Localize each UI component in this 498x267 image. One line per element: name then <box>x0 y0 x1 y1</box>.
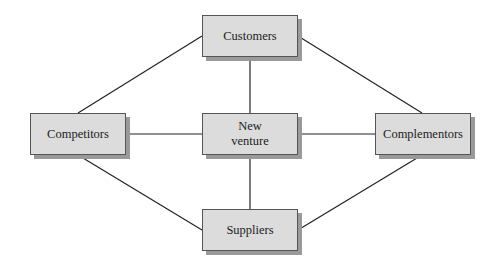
node-label: Complementors <box>383 127 463 142</box>
edge-customers-complementors <box>298 36 422 113</box>
node-label-line2: venture <box>231 134 268 149</box>
node-label-line1: New <box>238 119 262 134</box>
edge-suppliers-complementors <box>298 155 422 230</box>
node-complementors: Complementors <box>375 113 471 155</box>
node-label: Suppliers <box>226 223 273 238</box>
edge-suppliers-competitors <box>78 155 202 230</box>
node-label: Competitors <box>47 127 109 142</box>
node-label: Customers <box>223 29 276 44</box>
edge-customers-competitors <box>78 36 202 113</box>
node-competitors: Competitors <box>30 113 126 155</box>
node-suppliers: Suppliers <box>202 209 298 251</box>
node-customers: Customers <box>202 15 298 57</box>
node-new-venture: New venture <box>202 113 298 155</box>
